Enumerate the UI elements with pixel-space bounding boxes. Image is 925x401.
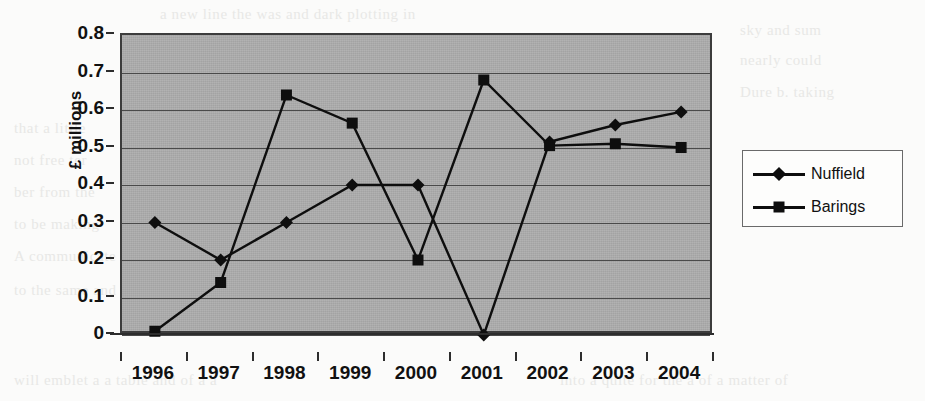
data-point-nuffield-1996[interactable] (148, 216, 161, 229)
y-axis-tick-label: 0.1 (78, 285, 104, 307)
diamond-icon (772, 167, 786, 181)
x-axis-tick-mark (120, 352, 122, 361)
x-axis-tick-mark (383, 352, 385, 361)
legend-marker-square-icon (753, 199, 805, 215)
data-point-nuffield-2003[interactable] (609, 119, 622, 132)
x-axis-tick-label: 1996 (132, 362, 174, 384)
data-point-nuffield-2000[interactable] (412, 179, 425, 192)
x-axis-tick-mark (580, 352, 582, 361)
chart-figure: a new line the was and dark plotting in … (0, 0, 925, 401)
gridline (122, 335, 710, 336)
x-axis-tick-mark (449, 352, 451, 361)
y-axis-tick-mark (106, 295, 114, 297)
y-axis-tick-mark (106, 32, 114, 34)
y-axis-tick-mark (106, 70, 114, 72)
y-axis-tick-label: 0 (93, 322, 104, 344)
y-axis-tick-label: 0.2 (78, 247, 104, 269)
x-axis-tick-labels: 199619971998199920002001200220032004 (120, 352, 712, 382)
data-point-nuffield-1998[interactable] (280, 216, 293, 229)
x-axis-tick-mark (646, 352, 648, 361)
data-point-barings-2004[interactable] (676, 142, 687, 153)
data-point-nuffield-2004[interactable] (675, 105, 688, 118)
series-line-barings (155, 80, 681, 331)
x-axis-tick-mark (712, 352, 714, 361)
x-axis-line (110, 333, 714, 335)
y-axis-tick-labels: 0.80.70.60.50.40.30.20.10 (60, 33, 114, 333)
data-point-barings-2002[interactable] (544, 140, 555, 151)
plot-area (120, 33, 712, 333)
x-axis-tick-mark (317, 352, 319, 361)
data-point-nuffield-1999[interactable] (346, 179, 359, 192)
series-line-nuffield (155, 112, 681, 335)
y-axis-tick-mark (106, 107, 114, 109)
data-point-barings-2000[interactable] (413, 255, 424, 266)
x-axis-tick-label: 1998 (263, 362, 305, 384)
bleed-text-line: Dure b. taking (740, 84, 835, 101)
y-axis-tick-label: 0.4 (78, 172, 104, 194)
legend-label: Barings (811, 198, 865, 216)
y-axis-tick-label: 0.6 (78, 97, 104, 119)
y-axis-tick-label: 0.3 (78, 210, 104, 232)
bleed-text-line: nearly could (740, 52, 822, 69)
y-axis-tick-mark (106, 182, 114, 184)
legend-label: Nuffield (811, 165, 865, 183)
x-axis-tick-label: 2003 (592, 362, 634, 384)
square-icon (774, 202, 785, 213)
data-point-barings-2001[interactable] (478, 75, 489, 86)
series-layer (122, 35, 714, 335)
x-axis-tick-mark (515, 352, 517, 361)
x-axis-tick-label: 2002 (526, 362, 568, 384)
data-point-nuffield-1997[interactable] (214, 254, 227, 267)
legend-item-barings[interactable]: Barings (753, 196, 865, 218)
data-point-barings-1998[interactable] (281, 90, 292, 101)
x-axis-tick-label: 1999 (329, 362, 371, 384)
y-axis-tick-mark (106, 220, 114, 222)
legend-item-nuffield[interactable]: Nuffield (753, 163, 865, 185)
x-axis-tick-label: 2004 (658, 362, 700, 384)
x-axis-tick-label: 2000 (395, 362, 437, 384)
legend-marker-diamond-icon (753, 166, 805, 182)
data-point-barings-1996[interactable] (149, 326, 160, 337)
y-axis-tick-mark (106, 145, 114, 147)
bleed-text-line: a new line the was and dark plotting in (160, 6, 416, 23)
data-point-barings-1999[interactable] (347, 118, 358, 129)
chart-legend[interactable]: NuffieldBarings (742, 150, 903, 227)
data-point-barings-2003[interactable] (610, 138, 621, 149)
y-axis-tick-label: 0.8 (78, 22, 104, 44)
x-axis-tick-label: 2001 (461, 362, 503, 384)
x-axis-tick-label: 1997 (198, 362, 240, 384)
data-point-nuffield-2001[interactable] (477, 329, 490, 342)
y-axis-tick-mark (106, 257, 114, 259)
y-axis-tick-label: 0.7 (78, 60, 104, 82)
x-axis-tick-mark (252, 352, 254, 361)
data-point-barings-1997[interactable] (215, 277, 226, 288)
bleed-text-line: sky and sum (740, 22, 822, 39)
y-axis-tick-label: 0.5 (78, 135, 104, 157)
x-axis-tick-mark (186, 352, 188, 361)
